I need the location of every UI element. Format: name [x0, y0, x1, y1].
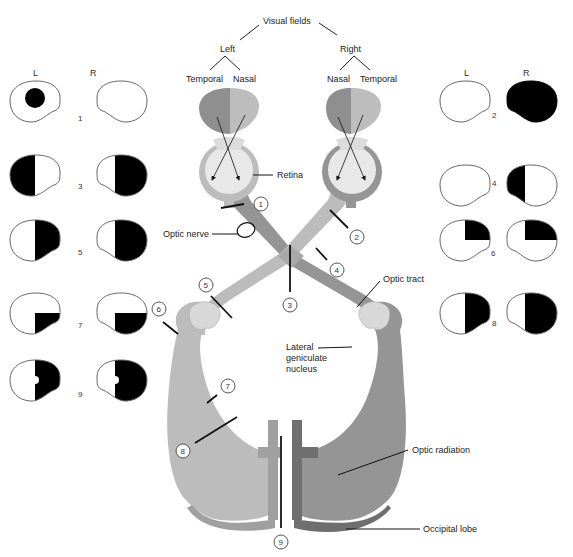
field-defect-1: 1 — [10, 81, 147, 123]
lesion-marker-5: 5 — [199, 278, 213, 292]
right-label: Right — [340, 44, 362, 54]
right-temporal-label: Temporal — [360, 74, 397, 84]
visual-pathway-diagram: Visual fields Left Right Temporal Nasal … — [0, 0, 573, 557]
svg-text:R: R — [90, 68, 97, 78]
svg-text:3: 3 — [78, 182, 83, 191]
svg-text:7: 7 — [226, 382, 231, 391]
left-label: Left — [220, 44, 236, 54]
lesion-marker-1: 1 — [254, 197, 268, 211]
right-lateral-geniculate-nucleus — [359, 302, 390, 330]
svg-text:2: 2 — [355, 233, 360, 242]
svg-text:L: L — [33, 68, 38, 78]
right-eye-visual-field — [326, 88, 381, 134]
right-calcarine-branch — [292, 447, 318, 458]
lgn-label-line1: Lateral — [286, 342, 314, 352]
occipital-lobe-label: Occipital lobe — [423, 524, 477, 534]
lesion-marker-3: 3 — [283, 298, 297, 312]
svg-text:1: 1 — [78, 114, 83, 123]
svg-text:8: 8 — [492, 319, 497, 328]
field-defect-2: 2 — [440, 81, 557, 122]
left-eye-visual-field — [199, 88, 259, 134]
optic-radiation-label: Optic radiation — [412, 445, 470, 455]
right-nasal-label: Nasal — [327, 74, 350, 84]
optic-tract-label: Optic tract — [383, 274, 425, 284]
right-optic-radiation — [293, 302, 406, 521]
svg-text:6: 6 — [157, 305, 162, 314]
svg-text:7: 7 — [78, 321, 83, 330]
field-defect-7: 7 — [10, 293, 155, 338]
svg-text:3: 3 — [288, 301, 293, 310]
field-defect-9: 9 — [10, 355, 155, 405]
lgn-label-line2: geniculate — [286, 353, 327, 363]
lesion-marker-7: 7 — [221, 379, 235, 393]
lesion-marker-2: 2 — [350, 230, 364, 244]
lesion-marker-6: 6 — [152, 302, 166, 316]
title-tree: Visual fields Left Right Temporal Nasal … — [186, 16, 397, 84]
left-nasal-label: Nasal — [233, 74, 256, 84]
field-column-headers: L R L R — [33, 68, 530, 78]
field-defect-3: 3 — [5, 150, 155, 200]
svg-text:1: 1 — [259, 200, 264, 209]
svg-text:2: 2 — [492, 111, 497, 120]
left-optic-radiation — [167, 302, 275, 521]
left-calcarine-branch — [258, 447, 280, 458]
svg-text:9: 9 — [78, 390, 83, 399]
retina-label: Retina — [277, 170, 303, 180]
svg-text:5: 5 — [204, 281, 209, 290]
left-eye — [199, 137, 259, 208]
lgn-label-line3: nucleus — [286, 364, 318, 374]
lesion-marker-4: 4 — [330, 263, 344, 277]
lesion-line-2 — [330, 210, 348, 228]
svg-text:8: 8 — [181, 447, 186, 456]
left-temporal-label: Temporal — [186, 74, 223, 84]
field-defect-4: 4 — [440, 160, 557, 210]
visual-fields-title: Visual fields — [263, 16, 311, 26]
svg-text:6: 6 — [491, 249, 496, 258]
svg-text:9: 9 — [279, 538, 284, 547]
field-defect-5: 5 — [10, 215, 155, 265]
svg-text:L: L — [464, 68, 469, 78]
lesion-marker-8: 8 — [176, 444, 190, 458]
svg-text:5: 5 — [78, 248, 83, 257]
left-calcarine-cortex — [268, 420, 278, 520]
svg-text:4: 4 — [492, 179, 497, 188]
svg-text:4: 4 — [335, 266, 340, 275]
lesion-line-4 — [316, 248, 327, 260]
lesion-line-6 — [163, 322, 178, 334]
svg-text:R: R — [523, 68, 530, 78]
right-calcarine-cortex — [292, 420, 302, 520]
lesion-marker-9: 9 — [274, 535, 288, 549]
field-defect-6: 6 — [440, 215, 565, 261]
optic-nerve-label: Optic nerve — [163, 229, 209, 239]
left-lateral-geniculate-nucleus — [189, 302, 220, 330]
field-defect-8: 8 — [440, 288, 565, 338]
